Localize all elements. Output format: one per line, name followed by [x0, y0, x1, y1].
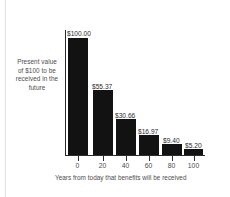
x-tick-label-0: 0: [70, 162, 86, 169]
x-axis-title: Years from today that benefits will be r…: [55, 174, 230, 181]
bar-5: [184, 149, 203, 155]
x-tick-label-1: 20: [95, 162, 111, 169]
x-tick-5: [194, 156, 195, 161]
bar-value-label-5: $5.20: [185, 142, 202, 149]
x-axis-line: [65, 155, 205, 156]
x-tick-0: [78, 156, 79, 161]
bar-value-label-0: $100.00: [67, 30, 91, 37]
bar-value-label-2: $30.66: [115, 112, 135, 119]
plot-area: $100.00 $55.37 $30.66 $16.97 $9.40 $5.20…: [65, 30, 205, 156]
y-axis-label-line-2: of $100 to be: [8, 67, 66, 76]
bar-value-label-4: $9.40: [163, 137, 180, 144]
page-rule: [5, 0, 6, 197]
bar-4: [162, 144, 182, 155]
bar-value-label-1: $55.37: [92, 83, 112, 90]
y-axis-label-line-4: future: [8, 84, 66, 93]
bar-2: [116, 119, 136, 155]
x-tick-label-3: 60: [141, 162, 157, 169]
bar-1: [93, 90, 113, 155]
bar-value-label-3: $16.97: [138, 128, 158, 135]
x-tick-label-4: 80: [164, 162, 180, 169]
y-axis-label-line-3: received in the: [8, 75, 66, 84]
x-tick-2: [126, 156, 127, 161]
bar-3: [139, 135, 159, 155]
y-axis-label-line-1: Present value: [8, 58, 66, 67]
chart-figure: Present value of $100 to be received in …: [0, 0, 230, 197]
bar-0: [68, 38, 88, 155]
x-tick-label-5: 100: [186, 162, 202, 169]
y-axis-line: [65, 30, 66, 156]
x-tick-4: [172, 156, 173, 161]
x-tick-1: [103, 156, 104, 161]
y-axis-label: Present value of $100 to be received in …: [8, 58, 66, 92]
x-tick-3: [149, 156, 150, 161]
x-tick-label-2: 40: [118, 162, 134, 169]
